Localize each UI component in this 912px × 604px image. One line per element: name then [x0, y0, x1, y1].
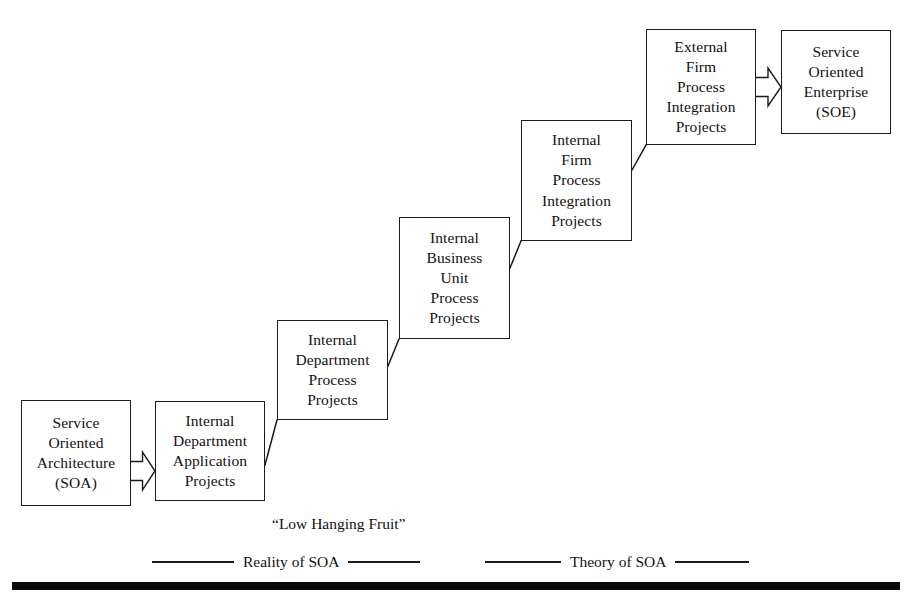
- node-label-line: Enterprise: [804, 82, 869, 102]
- node-label-line: Business: [427, 248, 483, 268]
- node-label-line: Oriented: [808, 62, 863, 82]
- node-label-line: Internal: [308, 330, 357, 350]
- legend-label-reality: Reality of SOA: [234, 553, 348, 571]
- legend-rule-right-reality: [348, 561, 420, 563]
- node-box-internal-firm-process-integration-projects: InternalFirmProcessIntegrationProjects: [521, 120, 632, 241]
- node-label-line: Application: [173, 451, 247, 471]
- baseline-bar: [12, 582, 900, 590]
- block-arrow-external-firm-to-soe: [756, 68, 781, 106]
- node-label-line: Projects: [676, 117, 727, 137]
- node-label-line: Internal: [186, 411, 235, 431]
- node-label-line: Service: [52, 413, 99, 433]
- step-connector-step-1: [265, 420, 277, 465]
- node-label-line: Integration: [542, 191, 611, 211]
- node-label-line: Projects: [429, 308, 480, 328]
- node-label-line: Service: [812, 42, 859, 62]
- node-label-line: Process: [308, 370, 356, 390]
- node-label-line: Unit: [441, 268, 469, 288]
- node-box-internal-business-unit-process-projects: InternalBusinessUnitProcessProjects: [399, 217, 510, 339]
- node-label-line: Firm: [686, 57, 717, 77]
- node-box-internal-department-application-projects: InternalDepartmentApplicationProjects: [155, 401, 265, 501]
- block-arrow-soa-to-internal-department-application: [131, 452, 155, 490]
- legend-rule-left-reality: [152, 561, 234, 563]
- step-connector-step-2: [388, 339, 399, 366]
- node-label-line: Oriented: [48, 433, 103, 453]
- step-connector-step-4: [632, 145, 646, 170]
- node-label-line: Process: [430, 288, 478, 308]
- node-label-line: Process: [552, 170, 600, 190]
- node-box-soa: ServiceOrientedArchitecture(SOA): [21, 400, 131, 506]
- diagram-canvas: ServiceOrientedArchitecture(SOA)Internal…: [0, 0, 912, 604]
- node-box-soe: ServiceOrientedEnterprise(SOE): [781, 30, 891, 134]
- node-label-line: Projects: [307, 390, 358, 410]
- node-label-line: Architecture: [37, 453, 116, 473]
- legend-reality-of-soa: Reality of SOA: [152, 553, 420, 571]
- node-box-internal-department-process-projects: InternalDepartmentProcessProjects: [277, 320, 388, 420]
- node-label-line: (SOE): [816, 102, 856, 122]
- node-label-line: Integration: [666, 97, 735, 117]
- node-label-line: Process: [677, 77, 725, 97]
- step-connector-step-3: [510, 241, 521, 268]
- node-label-line: Internal: [430, 228, 479, 248]
- node-box-external-firm-process-integration-projects: ExternalFirmProcessIntegrationProjects: [646, 29, 756, 145]
- node-label-line: Department: [295, 350, 369, 370]
- node-label-line: External: [674, 37, 727, 57]
- legend-rule-left-theory: [485, 561, 561, 563]
- legend-rule-right-theory: [675, 561, 749, 563]
- node-label-line: Firm: [561, 150, 592, 170]
- node-label-line: Department: [173, 431, 247, 451]
- low-hanging-fruit-caption: “Low Hanging Fruit”: [272, 515, 405, 533]
- legend-label-theory: Theory of SOA: [561, 553, 675, 571]
- node-label-line: Projects: [185, 471, 236, 491]
- node-label-line: Projects: [551, 211, 602, 231]
- node-label-line: (SOA): [55, 473, 97, 493]
- legend-theory-of-soa: Theory of SOA: [485, 553, 749, 571]
- node-label-line: Internal: [552, 130, 601, 150]
